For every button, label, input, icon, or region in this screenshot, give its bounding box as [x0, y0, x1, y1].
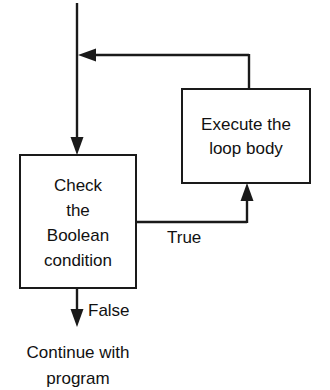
- false-arrowhead-icon: [71, 309, 84, 327]
- continue-text-line-2: program: [46, 369, 109, 388]
- check-box-line-4: condition: [44, 251, 112, 270]
- entry-arrowhead-icon: [71, 137, 84, 155]
- continue-text-line-1: Continue with: [26, 343, 129, 362]
- false-edge-label: False: [88, 301, 130, 320]
- execute-box-line-1: Execute the: [201, 115, 291, 134]
- check-box-line-2: the: [66, 201, 90, 220]
- flowchart-svg: Execute the loop body Check the Boolean …: [0, 0, 330, 390]
- true-edge-label: True: [167, 228, 201, 247]
- execute-box-line-2: loop body: [209, 139, 283, 158]
- feedback-arrowhead-icon: [78, 49, 96, 62]
- flowchart-canvas: Execute the loop body Check the Boolean …: [0, 0, 330, 390]
- check-box-line-1: Check: [54, 176, 103, 195]
- execute-box: [182, 89, 310, 183]
- true-arrowhead-icon: [241, 183, 254, 201]
- check-box-line-3: Boolean: [47, 226, 109, 245]
